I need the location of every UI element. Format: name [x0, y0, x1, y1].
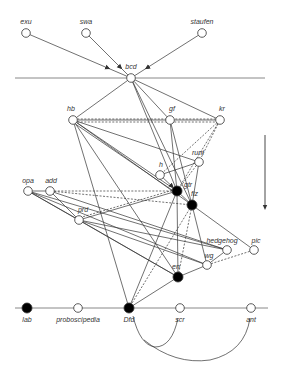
node-lab — [22, 303, 32, 313]
edge-add-prd — [53, 194, 76, 217]
arcs — [133, 316, 250, 361]
edge-prd-gtr — [83, 192, 173, 219]
node-gf — [166, 116, 175, 125]
edge-en-wg — [182, 267, 203, 276]
arc-Dfd-scr — [133, 316, 178, 347]
node-Dfd — [124, 303, 134, 313]
gene-network-diagram: exuswastaufenbcdhbgfkrrunthgtrfizopaaddp… — [0, 0, 282, 373]
node-en — [173, 272, 183, 282]
node-label-ant: ant — [246, 316, 257, 323]
node-gtr — [172, 186, 182, 196]
edge-gtr-en — [177, 195, 178, 272]
node-kr — [216, 116, 225, 125]
node-opa — [24, 187, 33, 196]
node-wg — [203, 261, 212, 270]
node-label-kr: kr — [219, 105, 226, 112]
edge-hb-runt — [77, 121, 195, 160]
node-label-staufen: staufen — [191, 18, 214, 25]
node-label-en: en — [172, 263, 180, 270]
node-runt — [195, 158, 204, 167]
node-label-exu: exu — [20, 18, 31, 25]
node-label-lab: lab — [22, 316, 31, 323]
node-hedgehog — [223, 246, 232, 255]
node-label-proboscipedia: proboscipedia — [55, 316, 100, 324]
node-label-wg: wg — [205, 252, 214, 260]
nodes — [22, 29, 259, 313]
direction-arrow — [263, 135, 267, 210]
edges — [30, 35, 251, 306]
node-swa — [82, 29, 91, 38]
node-label-prd: prd — [77, 206, 89, 214]
edge-gtr-prd — [83, 190, 173, 217]
arc-Dfd-ant — [144, 318, 250, 361]
edge-staufen-bcd — [135, 35, 199, 75]
node-staufen — [198, 29, 207, 38]
node-label-swa: swa — [80, 18, 93, 25]
node-label-fiz: fiz — [191, 190, 199, 197]
edge-swa-bcd — [89, 36, 128, 75]
node-hb — [69, 116, 78, 125]
edge-fiz-en — [179, 209, 191, 273]
node-label-scr: scr — [175, 316, 185, 323]
node-label-gtr: gtr — [184, 181, 193, 189]
node-exu — [22, 29, 31, 38]
node-h — [156, 171, 165, 180]
node-label-hedgehog: hedgehog — [206, 237, 237, 245]
node-labels: exuswastaufenbcdhbgfkrrunthgtrfizopaaddp… — [20, 18, 261, 324]
node-bcd — [127, 74, 136, 83]
edge-bcd-gtr — [133, 82, 176, 187]
arrow-down-icon — [263, 205, 267, 210]
node-fiz — [187, 200, 197, 210]
node-label-bcd: bcd — [125, 63, 137, 70]
node-label-h: h — [159, 161, 163, 168]
edge-fiz-Dfd — [131, 209, 190, 305]
node-prd — [75, 216, 84, 225]
edge-bcd-gf — [134, 81, 167, 117]
node-label-opa: opa — [22, 177, 34, 185]
node-proboscipedia — [74, 304, 83, 313]
arrowhead-icon — [145, 65, 149, 69]
node-label-Dfd: Dfd — [124, 316, 136, 323]
node-scr — [176, 304, 185, 313]
node-add — [46, 187, 55, 196]
node-label-pic: pic — [251, 237, 261, 245]
node-label-hb: hb — [67, 105, 75, 112]
node-ant — [247, 304, 256, 313]
node-pic — [250, 246, 259, 255]
edge-bcd-hb — [76, 81, 127, 118]
node-label-runt: runt — [192, 149, 205, 156]
node-label-add: add — [45, 177, 58, 184]
edge-bcd-kr — [135, 80, 216, 118]
node-label-gf: gf — [169, 105, 176, 113]
